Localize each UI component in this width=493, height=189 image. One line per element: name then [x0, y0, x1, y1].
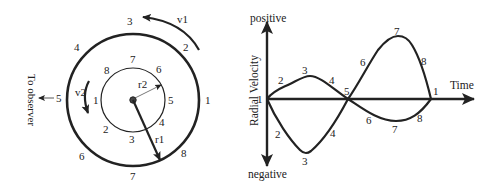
orbit-diagram: 1 2 3 4 5 6 7 8 1 2 3 4 5 6 7 8 r1 r2 v1… [26, 13, 211, 182]
y-axis-label: Radial Velocity [248, 55, 261, 126]
upper-label-4: 4 [329, 74, 335, 86]
upper-label-2: 2 [278, 74, 284, 86]
r1-arrow [133, 100, 160, 160]
upper-label-3: 3 [302, 64, 308, 76]
y-positive-label: positive [250, 12, 286, 25]
upper-label-1-end: 1 [433, 85, 439, 97]
binary-star-diagram: 1 2 3 4 5 6 7 8 1 2 3 4 5 6 7 8 r1 r2 v1… [0, 0, 493, 189]
outer-position-7: 7 [130, 170, 136, 182]
lower-label-7: 7 [392, 123, 398, 135]
inner-position-3: 3 [129, 133, 135, 145]
v2-label: v2 [75, 86, 86, 98]
outer-position-6: 6 [79, 150, 85, 162]
v1-label: v1 [177, 13, 188, 25]
inner-position-2: 2 [103, 123, 109, 135]
outer-position-8: 8 [181, 147, 187, 159]
outer-position-5: 5 [56, 92, 62, 104]
outer-position-3: 3 [127, 15, 133, 27]
outer-position-4: 4 [74, 41, 80, 53]
r2-label: r2 [138, 78, 147, 90]
x-axis-label: Time [450, 79, 474, 91]
upper-label-7: 7 [394, 25, 400, 37]
y-negative-label: negative [248, 168, 287, 181]
inner-position-6: 6 [156, 63, 162, 75]
upper-label-6: 6 [360, 56, 366, 68]
observer-label: To observer [26, 74, 38, 126]
velocity-curve-star2 [267, 99, 431, 153]
lower-label-2: 2 [275, 128, 281, 140]
lower-label-3: 3 [302, 155, 308, 167]
outer-position-2: 2 [183, 41, 189, 53]
upper-label-5: 5 [344, 85, 350, 97]
radial-velocity-plot: positive negative Time Radial Velocity 1… [248, 12, 474, 181]
lower-label-8: 8 [417, 112, 423, 124]
upper-label-8: 8 [421, 55, 427, 67]
r1-label: r1 [155, 133, 164, 145]
inner-position-4: 4 [159, 116, 165, 128]
outer-position-1: 1 [205, 94, 211, 106]
lower-label-4: 4 [330, 127, 336, 139]
lower-label-6: 6 [366, 114, 372, 126]
origin-label: 1 [257, 93, 263, 105]
inner-position-1: 1 [93, 94, 99, 106]
inner-position-8: 8 [104, 64, 110, 76]
inner-position-5: 5 [168, 94, 174, 106]
inner-position-7: 7 [130, 53, 136, 65]
